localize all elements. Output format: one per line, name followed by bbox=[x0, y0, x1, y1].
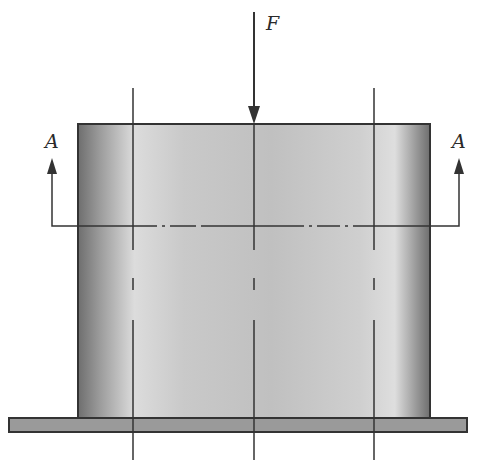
force-arrowhead-icon bbox=[248, 106, 260, 124]
force-label: F bbox=[265, 12, 280, 34]
section-arrow-left-icon bbox=[47, 158, 57, 174]
section-label-left: A bbox=[43, 130, 59, 152]
section-label-right: A bbox=[450, 130, 466, 152]
diagram-canvas: F A A bbox=[0, 0, 477, 469]
base-plate bbox=[9, 418, 467, 432]
section-arrow-right-icon bbox=[454, 158, 464, 174]
